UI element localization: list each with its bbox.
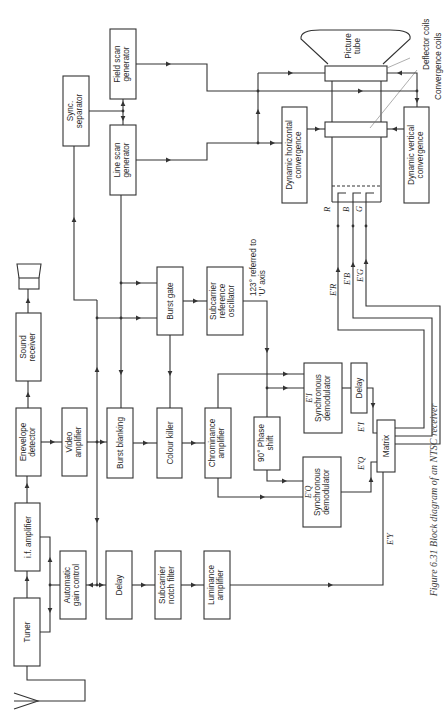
delay-label-luminance: Delay [115,574,124,596]
deflector-coils-label: Deflector coils [422,19,431,70]
field-scan-generator-block: Field scangenerator [110,29,136,99]
chrominance-amplifier-block: Chrominanceamplifier [205,408,231,478]
convergence-coils [325,122,387,137]
r-label: R [322,206,332,213]
sync-separator-block: Sync.separator [63,76,89,146]
subcarrier-oscillator-block: Subcarrierreferenceoscillator [207,267,243,335]
matrix-block: Matrix [377,420,395,472]
eb-label: E'B [342,273,352,286]
line-scan-generator-block: Line scangenerator [110,125,136,195]
phase-note-label: 123° referred to'U' axis [249,239,267,296]
signal-lines [25,62,440,632]
agc-label: Automaticgain control [63,564,81,607]
tuner-label: Tuner [23,621,32,642]
antenna-icon [14,666,85,709]
delay-block-i-channel: Delay [351,363,367,413]
burst-gate-block: Burst gate [157,267,183,335]
dynamic-vertical-convergence-block: Dynamic verticalconvergence [404,107,429,203]
if-amplifier-label: i.f. amplifier [24,516,33,558]
sound-receiver-label: Soundreceiver [19,332,37,361]
deflector-coils [325,66,387,81]
colour-killer-block: Colour killer [157,408,182,478]
g-label: G [354,206,364,212]
synchronous-demodulator-i-block: E'ISynchronousdemodulator [304,363,342,433]
ei-label: E'I [356,421,366,433]
burst-gate-label: Burst gate [166,282,175,320]
matrix-label: Matrix [382,435,391,457]
dynamic-horizontal-convergence-block: Dynamic horizontalconvergence [282,107,307,203]
field-scan-generator-label: Field scangenerator [113,45,131,83]
envelope-detector-block: Enevelopedetector [16,408,41,476]
picture-tube-label: Picturetube [344,33,362,59]
dynamic-vertical-convergence-label: Dynamic verticalconvergence [407,125,425,185]
luminance-amplifier-block: Luminanceamplifier [204,551,230,619]
synchronous-demodulator-q-block: E'QSynchronousdemodulator [303,457,341,527]
luminance-amplifier-label: Luminanceamplifier [207,565,225,606]
convergence-coils-label: Convergence coils [434,33,443,100]
burst-blanking-label: Burst blanking [116,417,125,469]
notch-filter-label: Subcarriernotch filter [158,566,176,604]
eg-label: E'G [355,269,365,283]
sound-receiver-block: Soundreceiver [16,313,41,381]
agc-block: Automaticgain control [60,551,86,619]
if-amplifier-block: i.f. amplifier [15,503,40,571]
eq-label: E'Q [356,457,366,471]
er-label: E'R [328,283,338,297]
notch-filter-block: Subcarriernotch filter [155,551,181,619]
line-scan-generator-label: Line scangenerator [113,142,131,177]
burst-blanking-block: Burst blanking [107,408,133,478]
picture-tube: Picturetube [301,30,410,218]
delay-label-i-channel: Delay [355,377,364,399]
speaker-icon [17,264,41,289]
ey-label: E'Y [385,532,395,546]
delay-block-luminance: Delay [106,551,132,619]
tuner-block: Tuner [14,598,40,666]
figure-caption: Figure 6.31 Block diagram of an NTSC rec… [428,404,439,598]
video-amplifier-block: Videoamplifier [62,408,87,476]
b-label: B [341,207,351,212]
envelope-detector-label: Enevelopedetector [19,422,37,461]
colour-killer-label: Colour killer [166,421,175,464]
subcarrier-oscillator-label: Subcarrierreferenceoscillator [209,282,236,320]
phase-shift-block: 90° Phaseshift [254,417,280,470]
ntsc-block-diagram: Tuner i.f. amplifier Enevelopedetector S… [0,0,447,723]
